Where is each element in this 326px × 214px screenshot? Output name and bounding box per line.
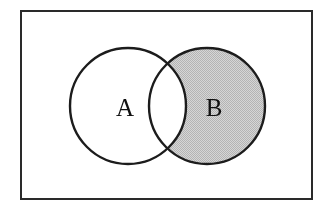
set-a-label: A [116, 94, 134, 121]
venn-diagram-figure: A B [0, 0, 326, 214]
region-a-intersect-b [0, 0, 326, 214]
set-b-label: B [206, 94, 223, 121]
venn-diagram-canvas: A B [0, 0, 326, 214]
